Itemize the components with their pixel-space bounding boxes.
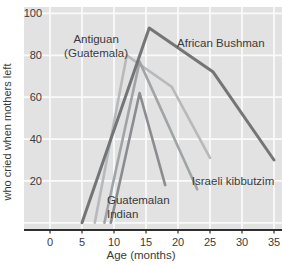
x-tick-label: 5 [79, 236, 85, 248]
x-tick-label: 10 [108, 236, 120, 248]
x-axis-title: Age (months) [106, 249, 175, 261]
x-tick-label: 35 [268, 236, 280, 248]
separation-anxiety-figure: 0510152025303520406080100 Antiguan(Guate… [0, 0, 282, 265]
annotation-african-bushman: African Bushman [177, 37, 265, 49]
y-tick-label: 60 [30, 91, 42, 103]
y-axis-title: who cried when mothers left [1, 64, 13, 202]
y-tick-label: 20 [30, 175, 42, 187]
x-tick-label: 20 [172, 236, 184, 248]
x-axis [24, 230, 282, 234]
y-tick-label: 100 [24, 7, 42, 19]
separation-anxiety-chart: 0510152025303520406080100 Antiguan(Guate… [0, 0, 282, 265]
y-tick-label: 40 [30, 133, 42, 145]
x-tick-label: 25 [204, 236, 216, 248]
x-tick-label: 30 [236, 236, 248, 248]
annotation-israeli-kibbutzim: Israeli kibbutzim [192, 175, 274, 187]
x-tick-label: 0 [47, 236, 53, 248]
y-tick-label: 80 [30, 49, 42, 61]
x-tick-label: 15 [140, 236, 152, 248]
